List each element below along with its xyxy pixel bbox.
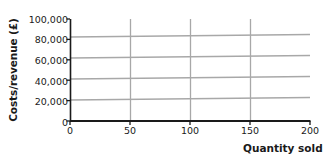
y-tick-label: 80,000 [16, 35, 68, 45]
vertical-gridlines [131, 19, 251, 121]
x-tick-label: 200 [290, 126, 330, 136]
x-axis-title: Quantity sold [243, 142, 323, 154]
x-tick-label: 100 [170, 126, 210, 136]
chart-container: Costs/revenue (£) 100,000 80,000 60,000 … [0, 0, 333, 162]
y-tick-label: 40,000 [16, 77, 68, 87]
plot-svg [70, 19, 310, 121]
x-tick-label: 50 [110, 126, 150, 136]
x-tick-label: 150 [230, 126, 270, 136]
plot-area [70, 19, 310, 121]
x-tick-label: 0 [50, 126, 90, 136]
y-axis-title: Costs/revenue (£) [7, 5, 19, 135]
y-tick-label: 100,000 [16, 15, 68, 25]
y-tick-label: 20,000 [16, 97, 68, 107]
y-tick-label: 60,000 [16, 56, 68, 66]
